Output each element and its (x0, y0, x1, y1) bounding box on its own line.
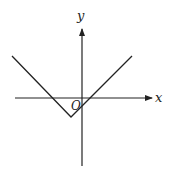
coordinate-diagram: y x O (0, 0, 169, 170)
x-axis-label: x (155, 90, 163, 105)
y-axis-label: y (76, 8, 85, 23)
origin-label: O (71, 99, 81, 113)
